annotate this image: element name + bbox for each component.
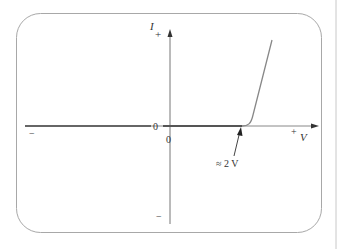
annotation-arrow-icon bbox=[237, 127, 243, 136]
screen-frame bbox=[17, 14, 322, 233]
voltage-negative-label: − bbox=[29, 128, 35, 139]
voltage-axis-label: V bbox=[300, 131, 308, 143]
diode-iv-diagram: I + − − + V 0 0 ≈ 2 V bbox=[0, 0, 338, 249]
voltage-positive-label: + bbox=[291, 126, 297, 137]
trace-conduction-curve bbox=[242, 40, 272, 126]
current-negative-label: − bbox=[156, 211, 162, 222]
origin-label-below: 0 bbox=[166, 134, 171, 145]
current-positive-label: + bbox=[155, 28, 161, 40]
annotation-pointer-line bbox=[234, 133, 240, 156]
voltage-axis-arrow-icon bbox=[311, 124, 319, 129]
current-axis-arrow-icon bbox=[168, 29, 173, 37]
threshold-voltage-annotation: ≈ 2 V bbox=[216, 158, 239, 169]
origin-label-left: 0 bbox=[153, 121, 158, 132]
